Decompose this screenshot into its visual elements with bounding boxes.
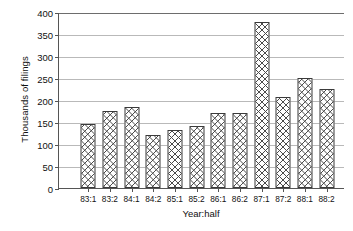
y-axis-tick-label: 50 <box>42 162 53 173</box>
y-axis-tick-label: 100 <box>37 140 53 151</box>
x-axis-tick-label: 83:2 <box>102 194 118 204</box>
bar-slot <box>142 13 164 188</box>
bar-slot <box>251 13 273 188</box>
bar-slot <box>186 13 208 188</box>
x-axis-title: Year:half <box>58 208 344 219</box>
x-axis-tick <box>283 188 284 192</box>
x-axis-tick <box>262 188 263 192</box>
x-axis-tick-label: 86:2 <box>232 194 248 204</box>
bar-slot <box>316 13 338 188</box>
bar <box>81 124 96 188</box>
y-axis-tick-label: 250 <box>37 74 53 85</box>
y-axis-tick-label: 300 <box>37 52 53 63</box>
bar <box>254 22 269 188</box>
y-axis-tick-label: 150 <box>37 118 53 129</box>
x-axis-tick <box>218 188 219 192</box>
bar-slot <box>272 13 294 188</box>
bar-slot <box>77 13 99 188</box>
x-axis-tick-label: 83:1 <box>80 194 96 204</box>
x-axis-tick-label: 84:2 <box>145 194 161 204</box>
x-axis-tick <box>153 188 154 192</box>
plot-area: 050100150200250300350400 83:183:284:184:… <box>58 13 344 189</box>
bar <box>102 111 117 188</box>
x-axis-tick-label: 86:1 <box>210 194 226 204</box>
x-axis-tick <box>132 188 133 192</box>
bar <box>189 126 204 188</box>
x-axis-tick-label: 88:1 <box>297 194 313 204</box>
bar-slot <box>207 13 229 188</box>
bar-chart-figure: Thousands of filings 0501001502002503003… <box>0 0 353 231</box>
bar <box>276 97 291 188</box>
y-axis-tick-label: 350 <box>37 30 53 41</box>
x-axis-tick-label: 87:2 <box>275 194 291 204</box>
x-axis-tick <box>327 188 328 192</box>
bar-slot <box>99 13 121 188</box>
bar <box>211 113 226 188</box>
bar <box>146 135 161 188</box>
y-axis-tick-label: 200 <box>37 96 53 107</box>
x-axis-tick-label: 87:1 <box>254 194 270 204</box>
bar-slot <box>164 13 186 188</box>
x-axis-tick-label: 85:2 <box>189 194 205 204</box>
x-axis-tick-label: 85:1 <box>167 194 183 204</box>
y-axis-tick-label: 400 <box>37 8 53 19</box>
y-axis-title: Thousands of filings <box>19 10 30 190</box>
x-axis-tick <box>197 188 198 192</box>
x-axis-tick <box>88 188 89 192</box>
y-axis-tick <box>55 189 59 190</box>
x-axis-tick <box>110 188 111 192</box>
bar <box>297 78 312 188</box>
bar <box>167 130 182 188</box>
bar <box>232 113 247 188</box>
y-axis-tick-label: 0 <box>48 184 53 195</box>
bar-slot <box>294 13 316 188</box>
x-axis-tick <box>305 188 306 192</box>
x-axis-tick <box>240 188 241 192</box>
x-axis-tick-label: 84:1 <box>124 194 140 204</box>
bar-series <box>59 13 344 188</box>
x-axis-tick-label: 88:2 <box>319 194 335 204</box>
bar <box>124 107 139 188</box>
bar <box>319 89 334 188</box>
x-axis-tick <box>175 188 176 192</box>
bar-slot <box>229 13 251 188</box>
bar-slot <box>121 13 143 188</box>
